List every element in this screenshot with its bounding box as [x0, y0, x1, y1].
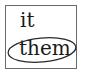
circle-annotation-icon: [6, 34, 78, 66]
word-it: it: [20, 10, 34, 30]
